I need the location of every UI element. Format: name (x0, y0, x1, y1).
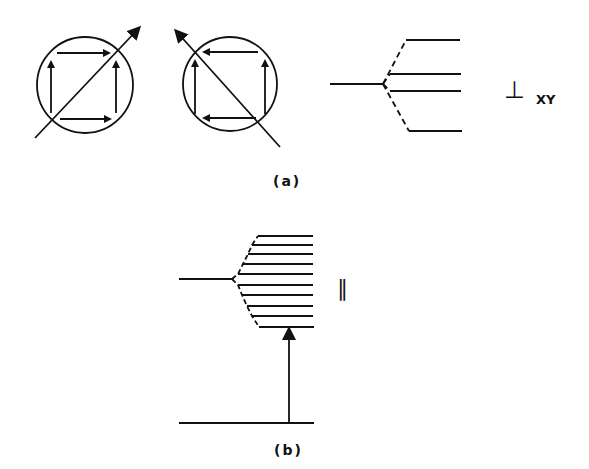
diagram-canvas (0, 0, 589, 469)
left-spin-circle (35, 28, 139, 138)
perpendicular-symbol: ⊥ (504, 78, 525, 102)
right-spin-circle (176, 31, 280, 147)
caption-a: (a) (273, 173, 301, 189)
polarization-subscript: XY (536, 92, 555, 107)
level-splitting-a (330, 40, 462, 131)
level-splitting-b (179, 236, 314, 423)
parallel-symbol: ∥ (337, 276, 348, 302)
caption-b: (b) (274, 442, 303, 458)
